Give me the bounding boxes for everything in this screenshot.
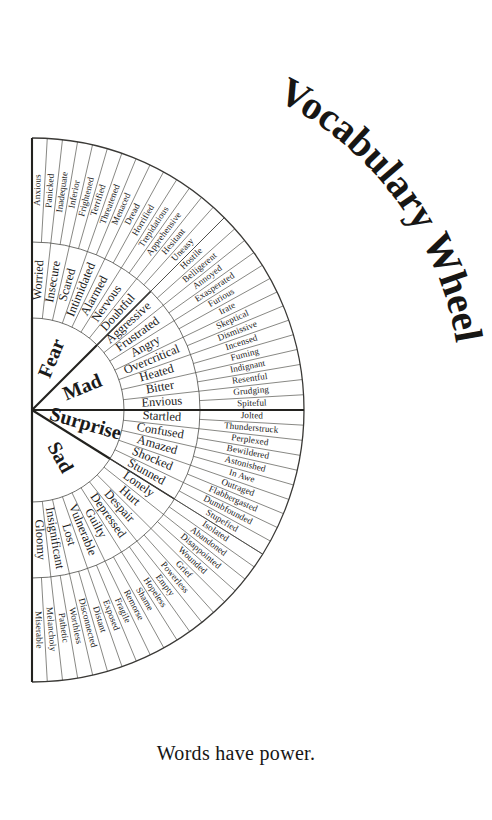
middle-word: Envious [141, 393, 183, 409]
vocabulary-wheel-figure: AnxiousPanickedInadequateInferiorFrighte… [0, 0, 492, 820]
middle-word: Gloomy [32, 519, 48, 561]
outer-word: Jolted [241, 410, 264, 421]
outer-word: Anxious [32, 174, 43, 206]
title-text: Vocabulary Wheel [272, 68, 492, 345]
page-title: Vocabulary Wheel [272, 68, 492, 345]
wheel-svg: AnxiousPanickedInadequateInferiorFrighte… [0, 0, 492, 820]
tagline: Words have power. [0, 742, 492, 765]
outer-word: Spiteful [237, 398, 267, 409]
outer-word: Miserable [34, 611, 45, 649]
